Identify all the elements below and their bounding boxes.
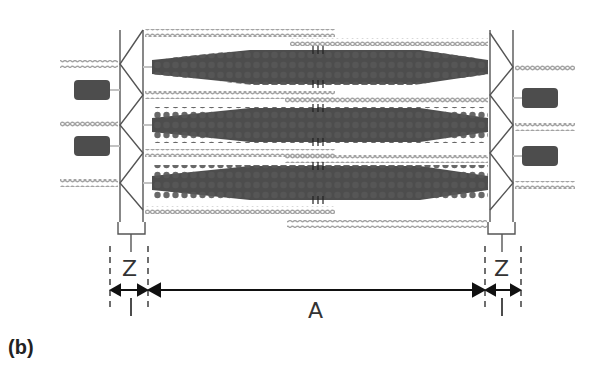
z-label-left: Z — [122, 258, 137, 280]
z-disc-left — [118, 30, 145, 252]
sarcomere-diagram: Z Z A (b) — [0, 0, 605, 367]
thick-filament-2 — [143, 104, 488, 146]
panel-label: (b) — [8, 336, 34, 359]
z-disc-right — [488, 30, 515, 252]
thick-filament-1 — [143, 46, 488, 88]
z-label-right: Z — [494, 258, 509, 280]
thick-filament-3 — [143, 162, 488, 204]
a-band-label: A — [308, 300, 323, 322]
